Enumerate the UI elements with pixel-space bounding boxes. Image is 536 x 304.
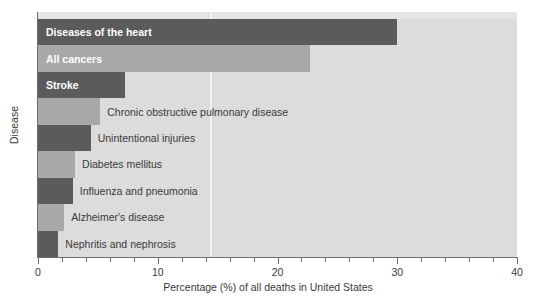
bar-row: Alzheimer's disease bbox=[38, 204, 517, 230]
x-tick-minor-16 bbox=[230, 258, 231, 262]
bar-row: All cancers bbox=[38, 45, 517, 71]
bar-label-6: Influenza and pneumonia bbox=[80, 186, 198, 197]
x-tick-minor-26 bbox=[349, 258, 350, 262]
x-tick-minor-38 bbox=[493, 258, 494, 262]
bar-5 bbox=[38, 151, 75, 177]
bar-row: Unintentional injuries bbox=[38, 125, 517, 151]
x-tick-minor-36 bbox=[469, 258, 470, 262]
bar-8 bbox=[38, 231, 58, 257]
plot-area: Diseases of the heartAll cancersStrokeCh… bbox=[38, 12, 517, 257]
x-tick-minor-24 bbox=[325, 258, 326, 262]
bar-label-4: Unintentional injuries bbox=[98, 133, 195, 144]
x-tick-label-4: 40 bbox=[511, 266, 523, 278]
x-tick-major-30 bbox=[397, 258, 398, 264]
x-tick-minor-6 bbox=[110, 258, 111, 262]
bar-label-0: Diseases of the heart bbox=[46, 27, 152, 38]
x-tick-minor-14 bbox=[206, 258, 207, 262]
bar-4 bbox=[38, 125, 91, 151]
bar-row: Nephritis and nephrosis bbox=[38, 231, 517, 257]
bar-6 bbox=[38, 178, 73, 204]
x-tick-label-0: 0 bbox=[35, 266, 41, 278]
x-tick-major-40 bbox=[517, 258, 518, 264]
bar-label-7: Alzheimer's disease bbox=[71, 212, 164, 223]
bar-3 bbox=[38, 98, 100, 124]
x-tick-minor-34 bbox=[445, 258, 446, 262]
bar-label-8: Nephritis and nephrosis bbox=[65, 239, 175, 250]
bar-row: Diseases of the heart bbox=[38, 19, 517, 45]
bar-label-1: All cancers bbox=[46, 53, 102, 64]
bar-row: Diabetes mellitus bbox=[38, 151, 517, 177]
x-tick-label-3: 30 bbox=[391, 266, 403, 278]
x-axis-title: Percentage (%) of all deaths in United S… bbox=[0, 281, 536, 293]
bar-row: Stroke bbox=[38, 72, 517, 98]
bar-label-3: Chronic obstructive pulmonary disease bbox=[107, 106, 288, 117]
y-axis-title: Disease bbox=[8, 95, 20, 155]
x-tick-label-1: 10 bbox=[152, 266, 164, 278]
bar-label-2: Stroke bbox=[46, 80, 79, 91]
y-axis-line bbox=[37, 12, 38, 258]
bar-row: Chronic obstructive pulmonary disease bbox=[38, 98, 517, 124]
x-tick-minor-28 bbox=[373, 258, 374, 262]
plot-top-highlight-strip bbox=[38, 12, 517, 19]
x-tick-minor-22 bbox=[301, 258, 302, 262]
x-tick-minor-32 bbox=[421, 258, 422, 262]
x-tick-minor-2 bbox=[62, 258, 63, 262]
x-tick-minor-4 bbox=[86, 258, 87, 262]
x-tick-minor-18 bbox=[254, 258, 255, 262]
x-tick-major-20 bbox=[278, 258, 279, 264]
x-tick-major-10 bbox=[158, 258, 159, 264]
bar-row: Influenza and pneumonia bbox=[38, 178, 517, 204]
bar-chart-figure: Diseases of the heartAll cancersStrokeCh… bbox=[0, 0, 536, 304]
x-tick-major-0 bbox=[38, 258, 39, 264]
x-tick-minor-8 bbox=[134, 258, 135, 262]
x-tick-minor-12 bbox=[182, 258, 183, 262]
bar-label-5: Diabetes mellitus bbox=[82, 159, 162, 170]
bar-7 bbox=[38, 204, 64, 230]
x-tick-label-2: 20 bbox=[272, 266, 284, 278]
